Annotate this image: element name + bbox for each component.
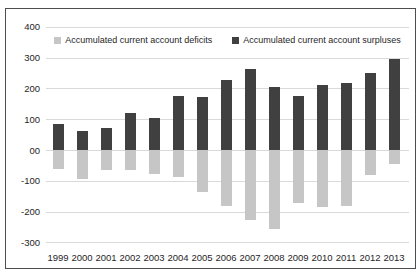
bar-surplus-2004 <box>173 96 184 150</box>
legend-label-deficits: Accumulated current account deficits <box>65 35 212 45</box>
bar-deficit-1999 <box>53 150 64 169</box>
y-axis-tick-label-00: 00 <box>6 145 40 156</box>
y-axis-tick-label--100: -100 <box>6 175 40 186</box>
x-axis-tick-label-2013: 2013 <box>379 252 409 263</box>
bar-deficit-2004 <box>173 150 184 177</box>
legend-label-surpluses: Accumulated current account surpluses <box>243 35 401 45</box>
bar-deficit-2006 <box>221 150 232 206</box>
y-axis-tick-label-300: 300 <box>6 52 40 63</box>
bar-surplus-2008 <box>269 87 280 150</box>
bar-surplus-2013 <box>389 59 400 150</box>
bar-deficit-2010 <box>317 150 328 207</box>
bar-deficit-2003 <box>149 150 160 174</box>
legend-swatch-deficits-icon <box>54 37 61 44</box>
y-axis-tick-label-100: 100 <box>6 114 40 125</box>
bar-deficit-2011 <box>341 150 352 206</box>
bar-deficit-2001 <box>101 150 112 170</box>
bar-surplus-2011 <box>341 83 352 150</box>
bar-surplus-2012 <box>365 73 376 150</box>
legend-swatch-surpluses-icon <box>232 37 239 44</box>
plot-area: 40030020010000-100-200-30019992000200120… <box>6 9 415 268</box>
bar-deficit-2013 <box>389 150 400 164</box>
bar-deficit-2000 <box>77 150 88 179</box>
legend: Accumulated current account deficits Acc… <box>46 34 409 46</box>
y-axis-tick-label--200: -200 <box>6 206 40 217</box>
gridline-300 <box>46 58 409 59</box>
legend-item-surpluses: Accumulated current account surpluses <box>232 35 401 45</box>
chart-frame: 40030020010000-100-200-30019992000200120… <box>5 8 416 269</box>
bar-surplus-2005 <box>197 97 208 150</box>
bar-surplus-2001 <box>101 128 112 150</box>
bar-deficit-2007 <box>245 150 256 220</box>
bar-surplus-2007 <box>245 69 256 150</box>
bar-deficit-2012 <box>365 150 376 175</box>
bar-surplus-2010 <box>317 85 328 150</box>
bar-surplus-2006 <box>221 80 232 150</box>
bar-deficit-2009 <box>293 150 304 203</box>
gridline-400 <box>46 27 409 28</box>
y-axis-tick-label-400: 400 <box>6 21 40 32</box>
bar-surplus-2009 <box>293 96 304 150</box>
gridline--200 <box>46 212 409 213</box>
bar-deficit-2005 <box>197 150 208 192</box>
bar-surplus-2000 <box>77 131 88 150</box>
bar-surplus-2003 <box>149 118 160 150</box>
bar-surplus-1999 <box>53 124 64 150</box>
y-axis-tick-label-200: 200 <box>6 83 40 94</box>
bar-deficit-2002 <box>125 150 136 170</box>
bar-deficit-2008 <box>269 150 280 229</box>
y-axis-tick-label--300: -300 <box>6 237 40 248</box>
bar-surplus-2002 <box>125 113 136 150</box>
legend-item-deficits: Accumulated current account deficits <box>54 35 212 45</box>
gridline--300 <box>46 242 409 243</box>
